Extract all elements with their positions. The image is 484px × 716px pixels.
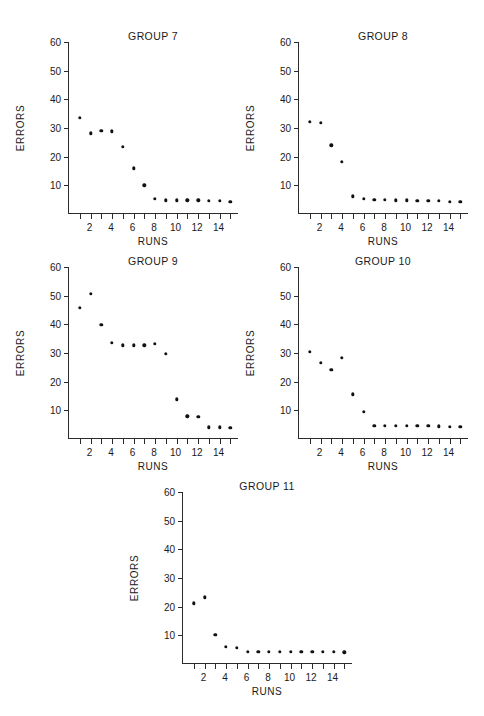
y-axis-tick	[64, 410, 69, 411]
data-point	[229, 426, 232, 429]
data-point	[153, 342, 156, 345]
data-point	[459, 200, 462, 203]
panel-title: GROUP 9	[68, 255, 238, 267]
y-axis-tick	[178, 635, 183, 636]
x-axis-tick	[134, 439, 135, 444]
data-point	[175, 397, 178, 400]
data-point	[89, 292, 92, 295]
y-axis-tick	[294, 267, 299, 268]
data-point	[207, 426, 210, 429]
y-axis-tick	[294, 353, 299, 354]
x-axis-tick-label: 10	[170, 222, 181, 233]
y-axis-tick	[294, 42, 299, 43]
x-axis-tick	[177, 214, 178, 219]
data-point	[78, 306, 81, 309]
data-point	[289, 650, 292, 653]
x-axis-tick-label: 8	[151, 222, 157, 233]
data-point	[121, 145, 124, 148]
x-axis-tick	[310, 214, 311, 219]
x-axis-tick	[342, 214, 343, 219]
x-axis-tick-label: 10	[400, 447, 411, 458]
x-axis-tick	[280, 664, 281, 669]
data-point	[459, 425, 462, 428]
panel-title: GROUP 8	[298, 30, 468, 42]
x-axis-tick	[230, 214, 231, 219]
x-axis-tick	[450, 439, 451, 444]
x-axis-tick	[258, 664, 259, 669]
x-axis-tick	[353, 214, 354, 219]
x-axis-tick	[344, 664, 345, 669]
x-axis-tick-label: 8	[151, 447, 157, 458]
data-point	[132, 166, 135, 169]
x-axis-tick-label: 14	[213, 447, 224, 458]
x-axis-tick	[187, 214, 188, 219]
x-axis-tick	[194, 664, 195, 669]
x-axis-tick-label: 4	[108, 447, 114, 458]
chart-panel: GROUP 71020304050602468101214RUNSERRORS	[36, 30, 252, 254]
x-axis-tick	[331, 439, 332, 444]
data-point	[186, 415, 189, 418]
x-axis-tick	[407, 214, 408, 219]
data-point	[416, 424, 419, 427]
x-axis-tick	[385, 214, 386, 219]
data-point	[164, 352, 167, 355]
x-axis-tick-label: 4	[222, 672, 228, 683]
x-axis-tick	[334, 664, 335, 669]
data-point	[362, 410, 365, 413]
y-axis-tick-label: 20	[39, 151, 61, 162]
y-axis-tick-label: 30	[39, 123, 61, 134]
y-axis-tick-label: 10	[39, 180, 61, 191]
y-axis-tick-label: 60	[39, 262, 61, 273]
x-axis-tick	[134, 214, 135, 219]
x-axis-tick-label: 10	[170, 447, 181, 458]
x-axis-tick	[123, 214, 124, 219]
x-axis-tick	[101, 214, 102, 219]
y-axis-tick	[64, 296, 69, 297]
x-axis-tick	[269, 664, 270, 669]
data-point	[373, 198, 376, 201]
x-axis-tick	[209, 439, 210, 444]
x-axis-tick	[428, 439, 429, 444]
y-axis-tick	[178, 492, 183, 493]
x-axis-tick-label: 4	[108, 222, 114, 233]
y-axis-label: ERRORS	[245, 330, 256, 376]
plot-area	[182, 492, 352, 664]
data-point	[394, 424, 397, 427]
x-axis-tick-label: 6	[130, 222, 136, 233]
data-point	[229, 200, 232, 203]
x-axis-label: RUNS	[252, 686, 283, 697]
y-axis-tick-label: 10	[269, 180, 291, 191]
data-point	[110, 130, 113, 133]
x-axis-tick	[331, 214, 332, 219]
y-axis-tick-label: 20	[269, 376, 291, 387]
y-axis-tick-label: 60	[269, 37, 291, 48]
x-axis-tick-label: 10	[400, 222, 411, 233]
data-point	[426, 424, 429, 427]
data-point	[164, 199, 167, 202]
y-axis-tick-label: 30	[39, 348, 61, 359]
y-axis-tick	[294, 71, 299, 72]
y-axis-tick	[64, 382, 69, 383]
y-axis-tick	[294, 128, 299, 129]
y-axis-tick	[294, 324, 299, 325]
data-point	[330, 368, 333, 371]
x-axis-tick-label: 14	[213, 222, 224, 233]
data-point	[394, 199, 397, 202]
y-axis-tick	[64, 353, 69, 354]
x-axis-tick	[396, 439, 397, 444]
data-point	[373, 424, 376, 427]
x-axis-tick	[385, 439, 386, 444]
data-point	[343, 651, 346, 654]
data-point	[321, 650, 324, 653]
y-axis-tick-label: 50	[39, 65, 61, 76]
x-axis-tick	[301, 664, 302, 669]
chart-panel: GROUP 81020304050602468101214RUNSERRORS	[266, 30, 482, 254]
x-axis-tick-label: 2	[317, 222, 323, 233]
y-axis-tick-label: 50	[269, 65, 291, 76]
chart-panel: GROUP 91020304050602468101214RUNSERRORS	[36, 255, 252, 479]
data-point	[340, 160, 343, 163]
x-axis-tick-label: 2	[87, 447, 93, 458]
y-axis-tick-label: 20	[39, 376, 61, 387]
x-axis-tick	[80, 214, 81, 219]
x-axis-tick	[310, 439, 311, 444]
